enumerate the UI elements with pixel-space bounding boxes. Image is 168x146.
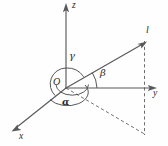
angle-label-gamma: γ	[69, 51, 75, 61]
angle-arc-beta	[92, 73, 97, 89]
figure-canvas	[0, 0, 168, 146]
z-axis-label: z	[72, 1, 76, 11]
x-axis-label: x	[19, 132, 23, 142]
y-axis-label: y	[153, 89, 157, 99]
x-axis-line	[17, 88, 66, 127]
angle-label-beta: β	[100, 68, 106, 78]
angle-arc-gamma	[66, 68, 84, 77]
ray-l-arrowhead	[137, 42, 147, 49]
ray-l-label: l	[146, 25, 149, 35]
angle-arc-plane-ellipse	[56, 85, 89, 96]
origin-label: O	[53, 77, 60, 87]
angle-label-alpha: α	[62, 97, 69, 107]
geometry-figure: z y x O l γ β α	[0, 0, 168, 146]
